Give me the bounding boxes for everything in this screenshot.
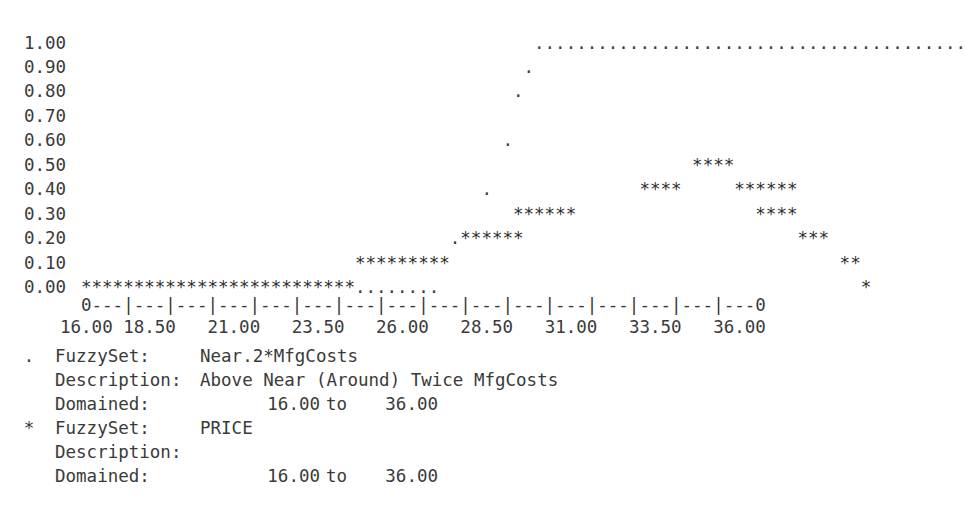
x-axis-tick-labels: 16.00 18.50 21.00 23.50 26.00 28.50 31.0… xyxy=(60,318,766,336)
y-tick-label-0.70: 0.70 xyxy=(24,107,80,125)
legend-entry-near2mfgcosts: . FuzzySet: Near.2*MfgCosts Description:… xyxy=(0,344,853,416)
legend-label-fuzzyset: FuzzySet: xyxy=(55,344,150,368)
y-tick-label-0.10: 0.10 xyxy=(24,254,80,272)
legend-value-domain-upper: 36.00 xyxy=(360,392,438,416)
plot-row-0.10: ********* ** xyxy=(81,254,861,272)
legend-label-fuzzyset: FuzzySet: xyxy=(55,416,150,440)
legend-value-description: Above Near (Around) Twice MfgCosts xyxy=(200,368,558,392)
plot-row-0.30: ****** **** xyxy=(81,205,797,223)
legend-line-description: Description: Above Near (Around) Twice M… xyxy=(0,368,853,392)
y-tick-label-0.50: 0.50 xyxy=(24,156,80,174)
ascii-plot-area: 1.00 0.90 0.80 0.70 0.60 0.50 0.40 0.30 … xyxy=(0,0,853,310)
y-tick-label-0.40: 0.40 xyxy=(24,180,80,198)
legend-line-fuzzyset: * FuzzySet: PRICE xyxy=(0,416,853,440)
legend: . FuzzySet: Near.2*MfgCosts Description:… xyxy=(0,344,853,488)
plot-row-0.60: . xyxy=(81,131,513,149)
plot-row-0.40: . **** ****** xyxy=(81,180,798,198)
legend-line-domained: Domained: 16.00 to 36.00 xyxy=(0,464,853,488)
legend-label-domained: Domained: xyxy=(55,392,150,416)
legend-value-fuzzyset: Near.2*MfgCosts xyxy=(200,344,358,368)
legend-line-fuzzyset: . FuzzySet: Near.2*MfgCosts xyxy=(0,344,853,368)
y-tick-label-0.20: 0.20 xyxy=(24,229,80,247)
dot-marker-icon: . xyxy=(22,344,36,368)
plot-row-1.00: ........................................… xyxy=(81,34,966,52)
legend-label-description: Description: xyxy=(55,368,181,392)
legend-line-domained: Domained: 16.00 to 36.00 xyxy=(0,392,853,416)
y-tick-label-0.60: 0.60 xyxy=(24,131,80,149)
y-tick-label-0.30: 0.30 xyxy=(24,205,80,223)
y-tick-label-0.80: 0.80 xyxy=(24,82,80,100)
star-marker-icon: * xyxy=(22,416,36,440)
plot-row-0.50: **** xyxy=(81,156,734,174)
y-tick-label-0.00: 0.00 xyxy=(24,278,80,296)
plot-row-0.20: .****** *** xyxy=(81,229,829,247)
legend-value-domain-upper: 36.00 xyxy=(360,464,438,488)
legend-value-fuzzyset: PRICE xyxy=(200,416,253,440)
legend-label-domained: Domained: xyxy=(55,464,150,488)
legend-label-domain-to: to xyxy=(326,464,347,488)
y-tick-label-0.90: 0.90 xyxy=(24,58,80,76)
y-tick-label-1.00: 1.00 xyxy=(24,34,80,52)
x-axis-line: 0---|---|---|---|---|---|---|---|---|---… xyxy=(81,296,766,314)
plot-row-0.80: . xyxy=(81,82,524,100)
legend-value-domain-lower: 16.00 xyxy=(200,464,320,488)
legend-entry-price: * FuzzySet: PRICE Description: Domained:… xyxy=(0,416,853,488)
legend-line-description: Description: xyxy=(0,440,853,464)
plot-row-0.90: . xyxy=(81,58,534,76)
plot-row-0.00: **************************........ * xyxy=(81,278,871,296)
legend-label-description: Description: xyxy=(55,440,181,464)
legend-label-domain-to: to xyxy=(326,392,347,416)
legend-value-domain-lower: 16.00 xyxy=(200,392,320,416)
